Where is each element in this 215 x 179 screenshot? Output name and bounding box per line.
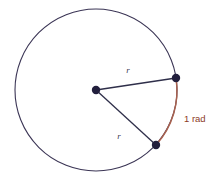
arc-one-radian [156,78,177,145]
radius-line-upper [96,78,176,90]
arc-end-point [152,141,160,149]
arc-length-label: 1 rad [184,113,206,124]
radian-diagram-figure: r r 1 rad [0,0,215,179]
center-point [92,86,100,94]
radius-label-upper: r [126,65,130,75]
arc-start-point [172,74,180,82]
radius-line-lower [96,90,156,145]
radian-diagram-svg: r r 1 rad [0,0,215,179]
radius-label-lower: r [117,131,121,141]
